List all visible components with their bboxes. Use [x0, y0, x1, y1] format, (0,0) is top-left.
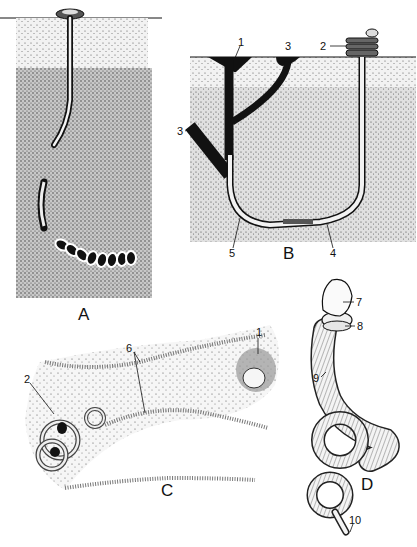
- callout-d-7: 7: [356, 296, 362, 308]
- callout-c-2: 2: [24, 373, 30, 385]
- callout-b-3-top: 3: [285, 40, 291, 52]
- panel-label-a: A: [78, 305, 90, 324]
- proboscis: [322, 279, 352, 316]
- fecal-cast-coil: [346, 29, 378, 56]
- panel-label-d: D: [361, 475, 373, 494]
- callout-d-8: 8: [357, 320, 363, 332]
- panel-label-c: C: [161, 481, 173, 500]
- panel-d: 7 8 9 10 D: [312, 279, 388, 532]
- callout-b-1: 1: [238, 36, 244, 48]
- egg-chamber: [243, 368, 265, 388]
- callout-c-6: 6: [126, 342, 132, 354]
- burrow-wall-lower: [65, 478, 255, 488]
- callout-d-10: 10: [349, 514, 361, 526]
- figure-canvas: A 1 3 2 3 5 4 B: [0, 0, 417, 547]
- panel-label-b: B: [283, 244, 294, 263]
- callout-b-4: 4: [330, 247, 336, 259]
- panel-a: A: [0, 9, 162, 324]
- callout-d-9: 9: [313, 372, 319, 384]
- panel-c: 2 6 1 C: [24, 325, 279, 500]
- callout-c-1: 1: [256, 326, 262, 338]
- callout-b-3-left: 3: [177, 125, 183, 137]
- soil-upper-layer: [16, 18, 148, 68]
- callout-b-2: 2: [320, 40, 326, 52]
- panel-b: 1 3 2 3 5 4 B: [177, 29, 416, 263]
- callout-b-5: 5: [229, 247, 235, 259]
- worm-in-burrow: [283, 219, 313, 224]
